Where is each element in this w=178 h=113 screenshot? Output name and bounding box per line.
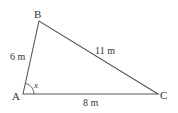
vertex-label-b: B: [34, 8, 41, 20]
angle-arc-a: [26, 83, 34, 94]
angle-label-x: x: [33, 80, 38, 90]
side-label-ac: 8 m: [83, 97, 99, 108]
vertex-label-a: A: [12, 90, 20, 102]
vertex-label-c: C: [160, 89, 167, 101]
triangle-abc: [23, 21, 158, 94]
triangle-diagram: B A C 6 m 11 m 8 m x: [0, 0, 178, 113]
side-label-ab: 6 m: [10, 51, 26, 62]
side-label-bc: 11 m: [95, 45, 115, 56]
